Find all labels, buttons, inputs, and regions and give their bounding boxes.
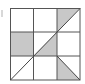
shade-middle-left-cell — [10, 32, 34, 56]
shaded-grid-figure — [0, 0, 85, 84]
